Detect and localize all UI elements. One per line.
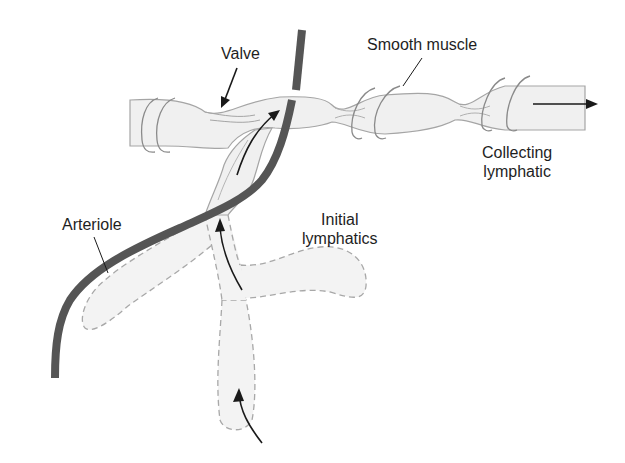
- smooth-muscle-label: Smooth muscle: [367, 35, 477, 54]
- arteriole-label: Arteriole: [62, 215, 122, 234]
- initial-label-line1: Initial: [302, 210, 378, 229]
- initial-label-line2: lymphatics: [302, 229, 378, 248]
- collecting-label-line2: lymphatic: [482, 162, 552, 181]
- collecting-label-line1: Collecting: [482, 143, 552, 162]
- arteriole-upper: [296, 30, 302, 90]
- valve-pointer: [224, 68, 237, 102]
- smooth-muscle-pointer: [403, 58, 422, 86]
- arrowheads: [215, 96, 598, 402]
- valve-label: Valve: [221, 44, 260, 63]
- initial-lymphatics-label: Initial lymphatics: [302, 210, 378, 248]
- collecting-lymphatic-label: Collecting lymphatic: [482, 143, 552, 181]
